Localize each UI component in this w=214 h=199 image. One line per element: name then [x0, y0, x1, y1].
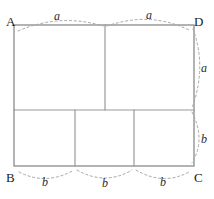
vertex-label-b: B: [6, 170, 15, 185]
measure-label-right-lower: b: [201, 132, 207, 146]
arc-right-lower: [192, 112, 199, 163]
geometry-figure: A B C D a a a b b b b: [0, 0, 214, 199]
vertex-label-a: A: [6, 14, 16, 29]
measure-label-bottom-left: b: [42, 175, 48, 189]
measure-label-top-right: a: [146, 8, 152, 22]
measure-label-top-left: a: [54, 9, 60, 23]
vertex-label-d: D: [194, 14, 203, 29]
measure-label-bottom-middle: b: [102, 176, 108, 190]
arc-right-upper: [192, 29, 200, 108]
figure-canvas: A B C D a a a b b b b: [0, 0, 214, 199]
measure-label-bottom-right: b: [160, 175, 166, 189]
vertex-label-c: C: [194, 170, 203, 185]
arc-top-left: [18, 21, 103, 31]
outer-rectangle: [14, 25, 194, 166]
measure-label-right-upper: a: [201, 61, 207, 75]
